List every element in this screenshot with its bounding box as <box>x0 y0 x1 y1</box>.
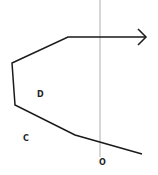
label-c: C <box>23 134 29 143</box>
label-o: O <box>99 158 106 167</box>
bent-path-line <box>12 37 146 154</box>
diagram-canvas: D C O <box>0 0 158 175</box>
label-d: D <box>37 90 44 99</box>
